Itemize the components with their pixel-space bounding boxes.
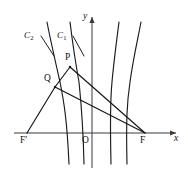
point-label-q: Q [44,74,51,84]
curve-label-c2: C2 [24,31,33,40]
curve-label-c1: C1 [57,31,66,40]
y-axis-arrow-icon [89,17,94,23]
curve-label-c2-sub: 2 [30,34,33,41]
curve-c2-right [127,22,141,164]
x-axis-label: x [174,134,178,144]
figure-canvas [0,0,188,173]
origin-label: O [82,136,89,146]
focus-label-f-prime: F′ [20,136,27,146]
curve-label-c1-sub: 1 [63,34,66,41]
point-label-p: P [65,53,70,63]
focus-label-f: F [140,136,145,146]
geometry-figure: C2 C1 P Q O F′ F x y [0,0,188,173]
y-axis-label: y [83,12,87,22]
point-q-dot [54,86,56,88]
segment-fprime-q [27,87,55,133]
point-p-dot [69,66,71,68]
curve-c1-right [110,22,119,164]
